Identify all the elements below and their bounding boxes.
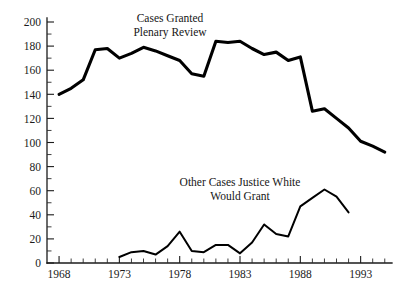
y-tick-label: 100 bbox=[24, 137, 42, 149]
annotation-line: Cases Granted bbox=[137, 12, 204, 24]
x-axis: 196819731978198319881993 bbox=[47, 256, 392, 280]
y-tick-label: 140 bbox=[24, 89, 42, 101]
series-line-cases-granted bbox=[59, 41, 385, 152]
line-chart-canvas: 020406080100120140160180200 196819731978… bbox=[0, 0, 405, 286]
y-tick-label: 80 bbox=[30, 161, 42, 173]
x-tick-label: 1968 bbox=[48, 268, 71, 280]
y-tick-label: 160 bbox=[24, 64, 42, 76]
y-tick-label: 180 bbox=[24, 40, 42, 52]
annotation-line: Plenary Review bbox=[133, 26, 207, 39]
y-axis: 020406080100120140160180200 bbox=[24, 16, 54, 269]
justice-white-label: Other Cases Justice WhiteWould Grant bbox=[180, 176, 301, 202]
y-tick-label: 20 bbox=[30, 233, 42, 245]
y-tick-label: 60 bbox=[30, 185, 42, 197]
y-tick-label: 0 bbox=[35, 257, 41, 269]
x-tick-label: 1978 bbox=[168, 268, 191, 280]
y-tick-label: 200 bbox=[24, 16, 42, 28]
series-lines bbox=[59, 41, 385, 257]
annotation-line: Other Cases Justice White bbox=[180, 176, 301, 188]
y-tick-label: 120 bbox=[24, 113, 42, 125]
x-tick-label: 1983 bbox=[229, 268, 252, 280]
x-tick-label: 1988 bbox=[289, 268, 312, 280]
x-tick-label: 1973 bbox=[108, 268, 131, 280]
x-tick-label: 1993 bbox=[349, 268, 372, 280]
annotation-line: Would Grant bbox=[210, 190, 270, 202]
chart-figure: 020406080100120140160180200 196819731978… bbox=[0, 0, 405, 286]
cases-granted-label: Cases GrantedPlenary Review bbox=[133, 12, 207, 39]
y-tick-label: 40 bbox=[30, 209, 42, 221]
